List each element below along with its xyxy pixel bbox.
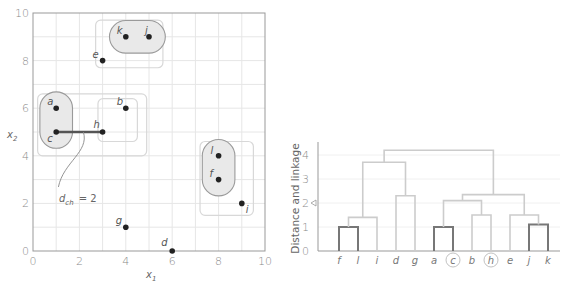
y-tick-label: 8 [22,55,29,68]
y-tick-label: 2 [302,197,309,210]
dendrogram-link [510,215,539,251]
y-tick-label: 10 [15,7,29,20]
figure: dch= 2abcdefghijkl02468100246810x1x2 012… [0,0,572,287]
y-tick-label: 6 [22,102,29,115]
x-tick-label: 4 [122,255,129,268]
point-label-i: i [246,204,249,215]
leaf-label-b: b [469,255,475,266]
y-tick-label: 1 [302,221,309,234]
annotation-label: dch= 2 [59,193,97,207]
y-tick-label: 0 [22,245,29,258]
dendrogram-link [384,150,493,194]
data-point-e [100,58,106,64]
data-point-d [169,248,175,254]
leaf-label-g: g [412,255,418,266]
x-tick-label: 8 [215,255,222,268]
leaf-label-e: e [507,255,513,266]
y-axis-label: Distance and linkage [289,143,301,253]
dendrogram-link [463,195,525,215]
data-point-a [53,105,59,111]
y-tick-label: 2 [22,197,29,210]
scatter-plot: dch= 2abcdefghijkl02468100246810x1x2 [6,7,272,283]
leaf-label-f: f [337,255,342,266]
dendrogram-link [472,215,491,251]
leaf-label-a: a [431,255,437,266]
data-point-f [216,177,222,183]
data-point-c [53,129,59,135]
data-point-k [123,34,129,40]
data-point-l [216,153,222,159]
dendrogram-link [444,201,482,227]
leaf-label-l: l [357,255,360,266]
leaf-label-d: d [393,255,400,266]
dendrogram-link [434,227,453,251]
x-tick-label: 2 [76,255,83,268]
data-point-h [100,129,106,135]
data-point-b [123,105,129,111]
dendrogram-plot: 01234flidgacbhejkDistance and linkage [289,142,560,267]
y-tick-label: 4 [22,150,29,163]
point-label-e: e [93,49,99,60]
data-point-g [123,224,129,230]
data-point-i [239,201,245,207]
point-label-l: l [211,145,214,156]
point-label-g: g [116,215,122,226]
point-label-d: d [161,237,168,248]
dendrogram-link [349,217,378,251]
leaf-label-k: k [545,255,552,266]
y-tick-label: 0 [302,245,309,258]
point-label-a: a [47,96,53,107]
cluster-capsule [202,139,235,195]
x-axis-label: x1 [145,269,156,283]
x-tick-label: 10 [258,255,272,268]
point-label-c: c [47,133,53,144]
point-label-h: h [94,119,100,130]
x-tick-label: 0 [30,255,37,268]
threshold-marker-icon [311,200,316,206]
dendrogram-link [363,162,406,217]
leaf-label-h: h [488,255,494,266]
leaf-label-j: j [526,255,531,266]
y-tick-label: 4 [302,149,309,162]
point-label-b: b [117,96,123,107]
y-tick-label: 3 [302,173,309,186]
y-axis-label: x2 [6,129,18,143]
dendrogram-link [396,196,415,251]
x-tick-label: 6 [169,255,176,268]
dendrogram-link [529,225,548,251]
leaf-label-c: c [450,255,456,266]
dendrogram-link [339,227,358,251]
cluster-capsule [40,92,73,148]
leaf-label-i: i [376,255,379,266]
